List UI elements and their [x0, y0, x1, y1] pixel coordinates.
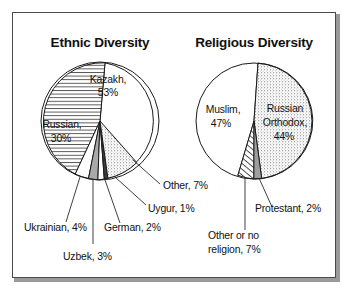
figure-container: Ethnic Diversity Religious Diversity Kaz…: [0, 0, 351, 294]
label-russian-line2: 30%: [51, 133, 71, 144]
leader-ukrainian: [66, 177, 80, 222]
label-uygur: Uygur, 1%: [148, 203, 195, 214]
label-other-ethnic: Other, 7%: [163, 180, 208, 191]
label-kazakh-line1: Kazakh,: [90, 74, 127, 85]
label-uzbek: Uzbek, 3%: [63, 251, 112, 262]
label-other-religion-line1: Other or no: [208, 230, 259, 241]
leader-uygur: [115, 177, 146, 205]
label-orthodox-line1: Russian: [267, 103, 304, 114]
chart-title-ethnic: Ethnic Diversity: [51, 35, 151, 50]
leader-german: [105, 180, 120, 223]
label-orthodox-line3: 44%: [274, 131, 294, 142]
label-german: German, 2%: [104, 222, 161, 233]
label-orthodox-line2: Orthodox,: [263, 117, 307, 128]
chart-title-religious: Religious Diversity: [195, 35, 313, 50]
label-muslim-line1: Muslim,: [206, 104, 241, 115]
slice-other-religion[interactable]: [238, 121, 254, 179]
charts-svg: Ethnic Diversity Religious Diversity Kaz…: [0, 0, 351, 294]
label-protestant: Protestant, 2%: [255, 203, 321, 214]
label-muslim-line2: 47%: [211, 118, 231, 129]
label-kazakh-line2: 53%: [98, 87, 118, 98]
label-ukrainian: Ukrainian, 4%: [24, 222, 87, 233]
label-russian-line1: Russian,: [42, 119, 81, 130]
leader-other-ethnic: [133, 160, 160, 184]
label-other-religion-line2: religion, 7%: [208, 244, 261, 255]
